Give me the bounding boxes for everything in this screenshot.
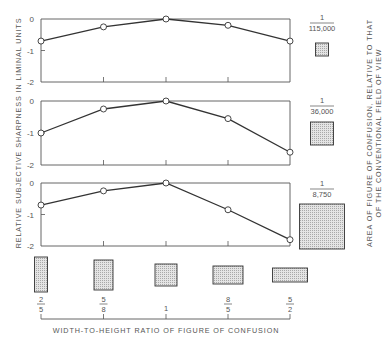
data-point-marker <box>225 22 231 28</box>
ratio-shape <box>94 260 113 290</box>
data-point-marker <box>101 106 107 112</box>
right-axis-title-line1: AREA OF FIGURE OF CONFUSION, RELATIVE TO… <box>365 19 374 247</box>
data-line <box>41 183 290 240</box>
data-point-marker <box>163 98 169 104</box>
y-tick-label: 0 <box>30 15 35 24</box>
ratio-numerator: 2 <box>39 295 43 304</box>
ratio-shape <box>155 264 177 286</box>
data-point-marker <box>38 130 44 136</box>
area-square <box>311 122 334 145</box>
ratio-denominator: 5 <box>226 305 230 314</box>
area-square <box>316 43 329 56</box>
y-axis-title: RELATIVE SUBJECTIVE SHARPNESS IN LIMINAL… <box>14 18 23 249</box>
data-point-marker <box>101 24 107 30</box>
y-tick-label: -1 <box>27 129 35 138</box>
area-swatch-bottom: 18,750 <box>300 179 345 249</box>
area-swatch-top: 1115,000 <box>309 13 336 56</box>
ratio-denominator: 8 <box>101 305 105 314</box>
y-tick-label: -1 <box>27 211 35 220</box>
panel-bottom: 0-1-2 <box>27 179 293 251</box>
area-swatch-middle: 136,000 <box>310 96 334 145</box>
x-axis-title: WIDTH-TO-HEIGHT RATIO OF FIGURE OF CONFU… <box>53 326 279 335</box>
data-point-marker <box>287 149 293 155</box>
right-axis-title-line2: OF THE CONVENTIONAL FIELD OF VIEW <box>374 48 383 217</box>
y-tick-label: -2 <box>27 161 35 170</box>
y-tick-label: -2 <box>27 242 35 251</box>
chart-canvas: 0-1-20-1-20-1-2 1115,000136,00018,750 25… <box>0 0 388 347</box>
y-tick-label: 0 <box>30 179 35 188</box>
fraction-numerator: 1 <box>320 13 324 22</box>
panel-middle: 0-1-2 <box>27 97 293 170</box>
fraction-denominator: 8,750 <box>313 190 332 199</box>
panel-frame <box>41 19 290 82</box>
fraction-numerator: 1 <box>320 96 324 105</box>
y-tick-label: -2 <box>27 78 35 87</box>
data-point-marker <box>38 202 44 208</box>
ratio-shape <box>273 268 308 282</box>
data-point-marker <box>225 116 231 122</box>
ratio-numerator: 5 <box>288 295 292 304</box>
ratio-numerator: 5 <box>101 295 105 304</box>
ratio-denominator: 5 <box>39 305 43 314</box>
data-point-marker <box>287 237 293 243</box>
data-point-marker <box>225 207 231 213</box>
fraction-denominator: 115,000 <box>309 24 336 33</box>
data-point-marker <box>163 180 169 186</box>
ratio-numerator: 8 <box>226 295 230 304</box>
y-tick-label: -1 <box>27 47 35 56</box>
panel-top: 0-1-2 <box>27 15 293 87</box>
ratio-label: 1 <box>164 304 168 313</box>
y-tick-label: 0 <box>30 97 35 106</box>
fraction-numerator: 1 <box>320 179 324 188</box>
data-line <box>41 101 290 152</box>
area-square <box>300 204 345 249</box>
panel-frame <box>41 183 290 246</box>
data-point-marker <box>38 38 44 44</box>
ratio-denominator: 2 <box>288 305 292 314</box>
data-point-marker <box>101 188 107 194</box>
ratio-shape <box>213 266 243 284</box>
data-point-marker <box>163 16 169 22</box>
ratio-shape <box>35 257 48 292</box>
data-point-marker <box>287 38 293 44</box>
fraction-denominator: 36,000 <box>311 107 334 116</box>
panel-frame <box>41 101 290 165</box>
